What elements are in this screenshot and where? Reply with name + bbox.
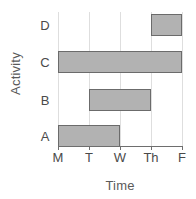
x-tick-label: Th bbox=[136, 150, 166, 165]
y-tick-label: B bbox=[34, 93, 56, 108]
plot-area bbox=[58, 12, 182, 146]
gridline-w bbox=[120, 12, 121, 146]
bar-activity-c bbox=[58, 51, 182, 73]
y-tick-label: C bbox=[34, 55, 56, 70]
gantt-chart: Activity D C B A M T W Th F Time bbox=[0, 0, 196, 199]
x-tick-label: W bbox=[105, 150, 135, 165]
y-tick-label: A bbox=[34, 129, 56, 144]
gridline-f bbox=[182, 12, 183, 146]
bar-activity-a bbox=[58, 125, 120, 147]
x-tick-label: T bbox=[74, 150, 104, 165]
y-tick-label: D bbox=[34, 18, 56, 33]
x-axis-tick-labels: M T W Th F bbox=[58, 150, 182, 168]
x-axis-title: Time bbox=[58, 178, 182, 193]
y-axis-tick-labels: D C B A bbox=[33, 0, 56, 199]
bar-activity-b bbox=[89, 89, 151, 111]
y-axis-title: Activity bbox=[8, 26, 23, 122]
bar-activity-d bbox=[151, 14, 182, 36]
x-tick-label: F bbox=[167, 150, 196, 165]
x-tick-label: M bbox=[43, 150, 73, 165]
